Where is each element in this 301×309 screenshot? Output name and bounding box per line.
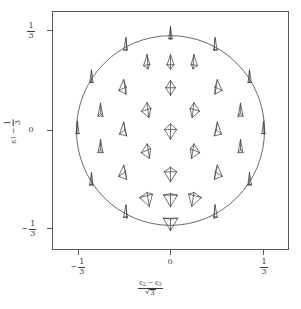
tetrahedron-edge bbox=[144, 55, 148, 66]
y-tick-lower-sign: − bbox=[22, 225, 29, 233]
tetrahedron-glyph bbox=[238, 103, 243, 116]
tetrahedron-edge bbox=[214, 176, 222, 179]
tetrahedron-edge bbox=[171, 129, 177, 139]
tetrahedron-glyph bbox=[191, 55, 197, 69]
tetrahedron-glyph bbox=[164, 167, 176, 182]
tetrahedron-edge bbox=[119, 176, 127, 179]
x-tick-mark bbox=[263, 250, 264, 255]
y-label-eps1-subscript: 1 bbox=[10, 136, 16, 140]
tetrahedron-edge bbox=[194, 55, 198, 66]
x-label-eps3-subscript: 3 bbox=[159, 281, 162, 287]
tetrahedron-edge bbox=[191, 64, 197, 65]
x-tick-mark bbox=[78, 250, 79, 255]
tetrahedron-edge bbox=[190, 108, 192, 117]
x-tick-label-right: 1 3 bbox=[251, 258, 277, 277]
tetrahedron-edge bbox=[214, 172, 215, 179]
y-tick-upper-denominator: 3 bbox=[27, 32, 34, 40]
x-tick-left-denominator: 3 bbox=[78, 268, 85, 276]
tetrahedron-glyph bbox=[190, 144, 199, 158]
y-label-eps1-symbol: ε bbox=[9, 139, 18, 143]
x-tick-left-sign: − bbox=[71, 263, 78, 271]
tetrahedron-edge bbox=[126, 172, 127, 179]
tetrahedron-glyph bbox=[141, 144, 150, 158]
tetrahedron-edge bbox=[164, 124, 170, 130]
tetrahedron-edge bbox=[191, 64, 193, 68]
tetrahedron-edge bbox=[171, 88, 176, 96]
tetrahedron-glyph bbox=[169, 27, 172, 40]
tetrahedron-glyph bbox=[119, 80, 126, 94]
tetrahedron-edge bbox=[144, 66, 148, 69]
tetrahedron-glyph bbox=[120, 122, 127, 136]
y-tick-mark bbox=[47, 228, 52, 229]
tetrahedron-edge bbox=[149, 194, 152, 206]
y-tick-label-lower: − 1 3 bbox=[14, 220, 44, 239]
x-label-eps2-subscript: 2 bbox=[143, 281, 146, 287]
x-tick-right-denominator: 3 bbox=[260, 268, 267, 276]
x-tick-left-numerator: 1 bbox=[78, 258, 85, 266]
tetrahedron-edge bbox=[171, 195, 178, 207]
y-tick-label-upper: 1 3 bbox=[18, 22, 44, 41]
tetrahedron-edge bbox=[149, 108, 151, 117]
y-tick-upper-numerator: 1 bbox=[27, 22, 34, 30]
tetrahedron-edge bbox=[192, 153, 200, 159]
x-tick-label-left: − 1 3 bbox=[63, 258, 93, 277]
x-tick-center-value: 0 bbox=[167, 257, 172, 266]
tetrahedron-edge bbox=[164, 167, 170, 172]
tetrahedron-edge bbox=[214, 134, 221, 136]
tetrahedron-glyph bbox=[90, 173, 94, 186]
y-label-denominator: 3 bbox=[14, 119, 22, 126]
tetrahedron-edge bbox=[171, 65, 174, 69]
figure-canvas: 1 3 0 − 1 3 − 1 3 0 bbox=[0, 0, 301, 309]
tetrahedron-glyph bbox=[166, 80, 176, 95]
tetrahedron-edge bbox=[167, 65, 170, 69]
glyph-layer bbox=[76, 27, 265, 231]
tetrahedron-edge bbox=[164, 172, 170, 182]
y-tick-zero-value: 0 bbox=[28, 125, 33, 134]
tetrahedron-edge bbox=[215, 205, 217, 217]
tetrahedron-edge bbox=[144, 64, 150, 65]
tetrahedron-edge bbox=[171, 172, 177, 182]
x-label-operator: − bbox=[148, 279, 154, 287]
tetrahedron-edge bbox=[171, 80, 176, 87]
y-label-numerator: 1 bbox=[4, 119, 12, 126]
tetrahedron-glyph bbox=[215, 80, 222, 94]
tetrahedron-edge bbox=[124, 205, 126, 217]
plot-area bbox=[52, 11, 289, 250]
tetrahedron-glyph bbox=[90, 70, 93, 82]
tetrahedron-glyph bbox=[214, 205, 217, 218]
tetrahedron-edge bbox=[167, 55, 170, 65]
tetrahedron-edge bbox=[166, 88, 171, 96]
tetrahedron-edge bbox=[149, 149, 150, 159]
tetrahedron-edge bbox=[189, 194, 192, 206]
tetrahedron-glyph bbox=[248, 173, 252, 186]
tetrahedron-glyph bbox=[214, 38, 217, 51]
tetrahedron-edge bbox=[147, 193, 152, 195]
y-tick-mark bbox=[47, 30, 52, 31]
x-tick-label-center: 0 bbox=[157, 258, 183, 266]
tetrahedron-glyph bbox=[238, 140, 243, 153]
tetrahedron-glyph bbox=[119, 165, 127, 179]
tetrahedron-edge bbox=[190, 149, 191, 159]
tetrahedron-glyph bbox=[164, 124, 176, 139]
tetrahedron-edge bbox=[120, 134, 127, 136]
tetrahedron-glyph bbox=[214, 165, 222, 179]
tetrahedron-glyph bbox=[167, 55, 174, 69]
y-axis-label: ε1− 1 3 bbox=[4, 101, 23, 161]
x-label-radicand: 3 bbox=[149, 289, 155, 297]
tetrahedron-edge bbox=[164, 129, 170, 139]
tetrahedron-glyph bbox=[124, 38, 127, 51]
tetrahedron-edge bbox=[163, 218, 170, 231]
tetrahedron-glyph bbox=[142, 103, 151, 118]
tetrahedron-edge bbox=[164, 195, 171, 207]
tetrahedron-glyph bbox=[214, 122, 221, 136]
tetrahedron-edge bbox=[142, 111, 149, 117]
tetrahedron-glyph bbox=[124, 205, 127, 218]
y-label-operator: − bbox=[9, 128, 18, 135]
tetrahedron-edge bbox=[171, 124, 177, 130]
tetrahedron-edge bbox=[148, 64, 150, 68]
x-tick-mark bbox=[170, 250, 171, 255]
tetrahedron-glyph bbox=[98, 140, 103, 153]
tetrahedron-edge bbox=[215, 91, 222, 95]
tetrahedron-glyph bbox=[190, 103, 199, 118]
tetrahedron-edge bbox=[119, 91, 126, 95]
